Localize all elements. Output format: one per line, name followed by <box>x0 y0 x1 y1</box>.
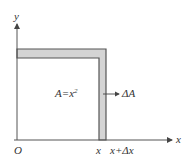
y-axis-label: y <box>13 10 19 22</box>
area-increment-diagram: y x O x x+Δx A=x2 ΔA <box>0 0 188 165</box>
area-label: A=x2 <box>54 87 78 99</box>
x-tick-label: x <box>95 144 101 156</box>
x-plus-dx-tick-label: x+Δx <box>109 144 134 156</box>
x-axis-label: x <box>175 133 181 145</box>
origin-label: O <box>14 144 22 156</box>
delta-a-label: ΔA <box>121 87 135 99</box>
